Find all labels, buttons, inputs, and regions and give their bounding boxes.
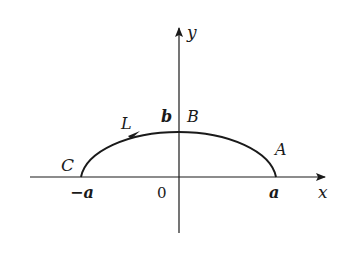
point-b-label: b [161,107,172,126]
curve-L-label: L [120,114,132,133]
point-B-label: B [186,107,199,126]
tick-pos-a: a [269,183,279,202]
origin-label: 0 [157,184,167,202]
x-axis-label: x [318,182,328,202]
point-C-label: C [61,155,74,175]
point-A-label: A [273,140,287,159]
ellipse-diagram: y x 0 −a a b B L A C [0,0,350,257]
y-axis-label: y [186,22,197,42]
tick-neg-a: −a [70,183,94,202]
